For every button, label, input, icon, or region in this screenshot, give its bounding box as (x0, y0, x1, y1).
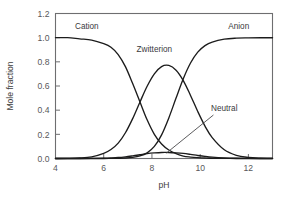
x-tick-label: 6 (101, 163, 106, 173)
y-tick-label: 1.0 (38, 33, 50, 43)
series-label-anion: Anion (228, 22, 249, 31)
x-tick-label: 12 (244, 163, 254, 173)
y-tick-label: 0.4 (38, 105, 50, 115)
y-tick-label: 0.0 (38, 154, 50, 164)
y-tick-label: 0.2 (38, 130, 50, 140)
series-label-cation: Cation (75, 22, 99, 31)
y-tick-label: 1.2 (38, 9, 50, 19)
x-axis-title: pH (159, 180, 170, 190)
x-tick-label: 10 (195, 163, 205, 173)
x-tick-label: 4 (53, 163, 58, 173)
chart-canvas: 4681012 0.00.20.40.60.81.01.2 CationZwit… (0, 0, 286, 203)
x-tick-label: 8 (150, 163, 155, 173)
y-tick-label: 0.8 (38, 57, 50, 67)
series-label-zwitterion: Zwitterion (137, 45, 173, 54)
series-label-neutral: Neutral (211, 104, 238, 113)
speciation-chart: 4681012 0.00.20.40.60.81.01.2 CationZwit… (0, 0, 286, 203)
y-axis-title: Mole fraction (5, 61, 15, 110)
y-tick-label: 0.6 (38, 81, 50, 91)
